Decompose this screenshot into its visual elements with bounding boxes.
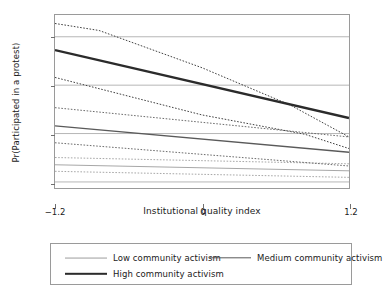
fit-line-medium xyxy=(55,126,349,152)
ci-upper-medium xyxy=(55,108,349,137)
chart-legend: Low community activismMedium community a… xyxy=(50,243,352,285)
ci-lower-medium xyxy=(55,143,349,166)
x-axis-label: Institutional quality index xyxy=(54,206,350,216)
ci-lower-low xyxy=(55,171,349,177)
y-tick-mark-.6 xyxy=(51,37,55,38)
legend-label-medium: Medium community activism xyxy=(257,253,383,263)
legend-label-low: Low community activism xyxy=(113,253,221,263)
y-tick-mark-.4 xyxy=(51,86,55,87)
legend-swatch-high xyxy=(65,270,107,278)
y-axis-label: Pr(Participated in a protest) xyxy=(11,15,25,190)
plot-area: Pr(Participated in a protest) 0.2.4.6 −1… xyxy=(54,14,350,189)
legend-swatch-low xyxy=(65,254,107,262)
legend-label-high: High community activism xyxy=(113,269,224,279)
legend-row-1: High community activism xyxy=(51,267,351,281)
x-tick-mark-2 xyxy=(350,204,351,209)
legend-entry-high[interactable]: High community activism xyxy=(65,267,224,281)
legend-entry-low[interactable]: Low community activism xyxy=(65,251,221,265)
legend-swatch-medium xyxy=(209,254,251,262)
plot-canvas xyxy=(55,15,349,188)
ci-upper-high xyxy=(55,23,349,136)
y-tick-mark-.2 xyxy=(51,135,55,136)
fit-line-high xyxy=(55,50,349,118)
fit-line-low xyxy=(55,165,349,171)
legend-row-0: Low community activismMedium community a… xyxy=(51,251,351,265)
y-tick-mark-0 xyxy=(51,184,55,185)
legend-entry-medium[interactable]: Medium community activism xyxy=(209,251,383,265)
ci-upper-low xyxy=(55,158,349,164)
ci-lower-high xyxy=(55,77,349,148)
